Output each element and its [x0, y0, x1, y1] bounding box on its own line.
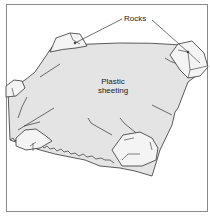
plastic-sheeting-label: Plastic sheeting — [88, 77, 138, 95]
sheeting-label-line1: Plastic — [88, 77, 138, 86]
plastic-sheeting-diagram — [0, 0, 210, 222]
sheeting-label-line2: sheeting — [88, 86, 138, 95]
rocks-label: Rocks — [124, 14, 146, 23]
plastic-sheeting-shape — [8, 43, 196, 176]
